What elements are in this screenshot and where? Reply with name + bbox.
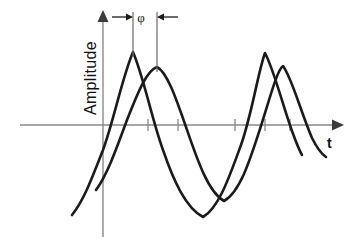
phase-dimension-arrows: [112, 14, 178, 21]
waveform-curve-1: [72, 52, 302, 217]
waveform-curve-2: [96, 66, 326, 201]
waveform-figure: φ t Amplitude: [0, 0, 357, 245]
x-axis-label: t: [327, 135, 332, 151]
y-axis-group: [98, 10, 109, 237]
x-axis-group: [20, 120, 344, 131]
phase-symbol-label: φ: [137, 10, 145, 25]
x-axis-arrow-icon: [332, 120, 344, 131]
y-axis-label: Amplitude: [82, 41, 99, 115]
y-axis-arrow-icon: [98, 10, 109, 22]
phase-arrow-left-icon: [157, 14, 164, 21]
figure-canvas: φ t Amplitude: [0, 0, 357, 245]
phase-arrow-right-icon: [126, 14, 133, 21]
